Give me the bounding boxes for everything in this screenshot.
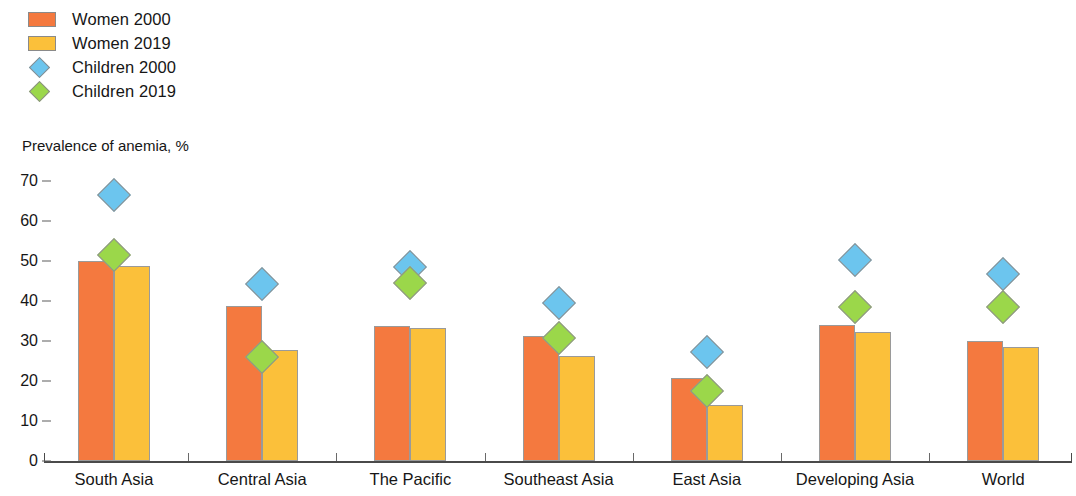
y-axis-tick-label: 30 [0,332,38,350]
bar [707,405,743,461]
x-axis-category-label: The Pacific [370,470,452,489]
x-axis-category-label: World [982,470,1025,489]
bar [374,326,410,461]
x-axis-group-separator [336,453,337,461]
diamond-marker [690,335,724,369]
y-axis-tick-label: 0 [0,452,38,470]
x-axis-group-separator [929,453,930,461]
diamond-marker [986,257,1020,291]
diamond-marker [245,267,279,301]
bar [523,336,559,461]
bar [967,341,1003,461]
y-axis-tick-mark [42,341,51,342]
bar [226,306,262,461]
y-axis-tick-mark [42,181,51,182]
x-axis-group-separator [485,453,486,461]
diamond-marker [97,178,131,212]
x-axis-category-label: Southeast Asia [504,470,614,489]
bar [819,325,855,461]
x-axis-line [44,461,1072,463]
y-axis-tick-mark [42,421,51,422]
bar [855,332,891,461]
y-axis-tick-mark [42,221,51,222]
x-axis-category-label: Developing Asia [796,470,914,489]
bar [410,328,446,461]
y-axis-tick-label: 60 [0,212,38,230]
diamond-marker [838,243,872,277]
bar [1003,347,1039,461]
diamond-marker [542,286,576,320]
y-axis-tick-label: 70 [0,172,38,190]
y-axis-tick-label: 20 [0,372,38,390]
diamond-marker [986,290,1020,324]
diamond-marker [838,290,872,324]
y-axis-tick-label: 40 [0,292,38,310]
y-axis-tick-label: 10 [0,412,38,430]
bar [559,356,595,461]
y-axis-tick-mark [42,301,51,302]
y-axis-tick-mark [42,461,51,462]
x-axis-category-label: South Asia [75,470,154,489]
y-axis-tick-mark [42,261,51,262]
x-axis-group-separator [188,453,189,461]
bar [78,261,114,461]
x-axis-right-cap [1071,453,1072,462]
y-axis-tick-mark [42,381,51,382]
bar [114,266,150,461]
x-axis-category-label: Central Asia [218,470,307,489]
chart-root: Women 2000Women 2019Children 2000Childre… [0,0,1076,496]
y-axis-tick-label: 50 [0,252,38,270]
x-axis-group-separator [633,453,634,461]
x-axis-group-separator [781,453,782,461]
x-axis-category-label: East Asia [672,470,741,489]
plot-area: 706050403020100South AsiaCentral AsiaThe… [0,0,1076,496]
